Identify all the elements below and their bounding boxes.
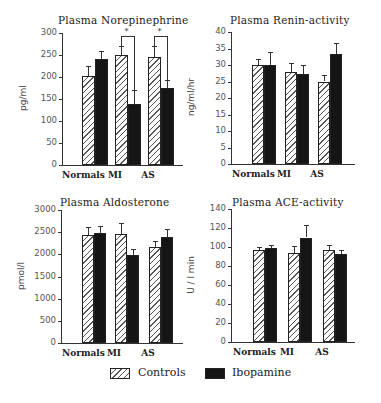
y-tick-mark [58,299,62,300]
y-tick-mark [228,49,232,50]
error-bar-cap [292,246,297,247]
x-tick-label: Normals [233,347,271,357]
y-tick-mark [58,343,62,344]
y-tick-label: 300 [29,27,57,37]
x-tick-label: AS [129,348,167,358]
y-tick-mark [228,131,232,132]
error-bar-cap [165,80,170,81]
y-tick-label: 150 [29,93,57,103]
ibopamine-bar [95,59,108,165]
x-tick-label: MI [268,347,306,357]
error-bar-cap [256,59,261,60]
controls-bar [82,235,94,343]
y-tick-mark [58,277,62,278]
y-tick-mark [228,285,232,286]
error-bar-cap [99,51,104,52]
y-axis-label: pg/ml [18,73,28,123]
y-tick-label: 200 [29,71,57,81]
y-tick-mark [228,209,232,210]
controls-bar [115,55,128,165]
y-tick-mark [228,266,232,267]
ibopamine-bar [127,255,139,343]
x-axis [231,164,355,165]
y-tick-label: 15 [198,109,226,119]
y-axis-label: ng/ml/hr [186,72,196,122]
y-tick-mark [59,121,63,122]
y-tick-label: 1000 [28,293,56,303]
ibopamine-bar [128,104,141,165]
y-tick-label: 250 [29,49,57,59]
error-bar [88,227,89,235]
x-tick-label: AS [303,347,341,357]
error-bar-cap [257,247,262,248]
y-tick-label: 50 [29,137,57,147]
y-axis-label: U / l min [186,250,196,300]
error-bar-cap [304,225,309,226]
error-bar-cap [268,52,273,53]
controls-bar [285,72,297,164]
y-tick-label: 10 [198,125,226,135]
error-bar-cap [269,245,274,246]
y-tick-mark [59,143,63,144]
error-bar-cap [86,66,91,67]
error-bar [134,90,135,104]
error-bar [100,226,101,234]
error-bar [336,43,337,54]
y-tick-mark [59,33,63,34]
y-tick-mark [228,115,232,116]
error-bar-cap [334,43,339,44]
y-tick-label: 2000 [28,248,56,258]
y-tick-label: 40 [198,298,226,308]
significance-bracket [154,36,168,50]
y-tick-mark [228,32,232,33]
error-bar-cap [153,241,158,242]
y-tick-label: 20 [198,92,226,102]
error-bar [167,80,168,88]
y-tick-label: 80 [198,260,226,270]
error-bar [167,229,168,237]
controls-bar [82,76,95,165]
chart-title: Plasma Aldosterone [60,196,169,208]
y-tick-mark [59,165,63,166]
y-tick-mark [58,321,62,322]
controls-bar [149,247,161,343]
error-bar-cap [132,90,137,91]
error-bar-cap [131,249,136,250]
controls-bar [318,82,330,165]
chart-title: Plasma Renin-activity [230,14,350,26]
y-tick-label: 140 [198,203,226,213]
error-bar-cap [289,63,294,64]
legend: Controls Ibopamine [110,366,310,382]
y-tick-mark [228,98,232,99]
ibopamine-bar [330,54,342,164]
y-axis-label: pmol/l [16,251,26,301]
ibopamine-bar [264,65,276,164]
ibopamine-bar [161,88,174,165]
error-bar [121,223,122,234]
y-tick-label: 25 [198,76,226,86]
error-bar-cap [86,227,91,228]
legend-ibopamine-label: Ibopamine [232,366,291,379]
legend-controls-label: Controls [138,366,186,379]
ibopamine-bar [335,254,347,342]
controls-bar [253,250,265,342]
y-tick-mark [228,164,232,165]
y-tick-label: 1500 [28,271,56,281]
controls-bar [323,250,335,342]
significance-marker: * [125,27,129,36]
chart-title: Plasma ACE-activity [232,196,344,208]
legend-ibopamine-swatch [205,368,225,379]
y-tick-mark [228,342,232,343]
y-tick-label: 3000 [28,204,56,214]
y-tick-label: 5 [198,142,226,152]
ibopamine-bar [300,238,312,343]
significance-bracket [121,36,135,54]
y-tick-label: 100 [29,115,57,125]
y-tick-label: 35 [198,43,226,53]
chart-title: Plasma Norepinephrine [58,14,188,26]
y-tick-mark [228,148,232,149]
ibopamine-bar [265,248,277,342]
y-tick-mark [59,77,63,78]
y-tick-mark [228,65,232,66]
significance-marker: * [158,27,162,36]
